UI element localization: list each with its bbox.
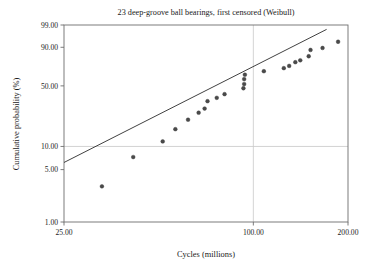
data-point [203,107,207,111]
data-point [131,155,135,159]
data-point [293,60,297,64]
data-point [287,64,291,68]
y-tick-label: 90.00 [41,43,58,52]
chart-canvas: 23 deep-groove ball bearings, first cens… [0,0,374,270]
data-point [243,73,247,77]
data-point [186,118,190,122]
data-point [336,40,340,44]
weibull-probability-plot: 23 deep-groove ball bearings, first cens… [0,0,374,270]
data-point [242,77,246,81]
data-point [100,184,104,188]
data-point [206,99,210,103]
data-point [173,127,177,131]
data-point [215,96,219,100]
x-axis-title: Cycles (millions) [177,250,235,259]
chart-title: 23 deep-groove ball bearings, first cens… [118,8,295,17]
x-tick-label: 200.00 [338,228,359,237]
data-point [282,66,286,70]
data-point [262,69,266,73]
y-tick-label: 5.00 [45,165,58,174]
data-point [242,86,246,90]
y-tick-label: 10.00 [41,142,58,151]
data-point [161,139,165,143]
y-tick-label: 99.00 [41,21,58,30]
y-tick-label: 50.00 [41,82,58,91]
data-point [197,111,201,115]
x-tick-label: 100.00 [243,228,264,237]
data-point [321,46,325,50]
data-point [223,92,227,96]
x-tick-label: 25.00 [55,228,72,237]
y-axis-title: Cumulative probability (%) [12,78,21,171]
data-point [309,48,313,52]
data-point [242,82,246,86]
data-point [307,54,311,58]
y-tick-label: 1.00 [45,218,58,227]
data-point [298,58,302,62]
